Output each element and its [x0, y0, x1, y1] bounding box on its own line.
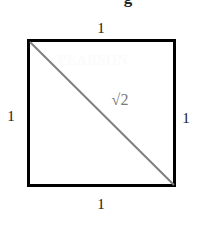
diagonal-length-label: √2 — [100, 90, 140, 110]
diagonal-line — [30, 42, 174, 185]
geometry-diagram: g PEARSON 1 1 1 1 √2 — [0, 0, 201, 226]
left-side-label: 1 — [2, 108, 20, 124]
top-side-label: 1 — [91, 20, 111, 36]
radicand-value: 2 — [120, 91, 128, 108]
bottom-side-label: 1 — [91, 196, 111, 212]
right-side-label: 1 — [177, 110, 195, 126]
